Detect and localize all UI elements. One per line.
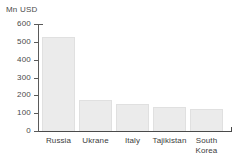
bar-south-korea	[190, 109, 223, 131]
y-tick-label: 200	[1, 91, 31, 99]
y-tick-mark	[34, 131, 39, 132]
y-tick-label: 300	[1, 74, 31, 82]
y-tick-label: 0	[1, 127, 31, 135]
bar-tajikistan	[153, 107, 186, 131]
x-axis-end-cap	[231, 127, 232, 132]
y-tick-mark	[34, 78, 39, 79]
y-tick-mark	[34, 95, 39, 96]
bar-ukrane	[79, 100, 112, 131]
y-tick-mark	[34, 24, 39, 25]
y-tick-mark	[34, 60, 39, 61]
bar-italy	[116, 104, 149, 131]
x-tick-label-line: South	[184, 136, 229, 146]
y-tick-label: 400	[1, 56, 31, 64]
x-tick-label: SouthKorea	[184, 136, 229, 155]
y-tick-mark	[34, 42, 39, 43]
x-tick-label-line: Korea	[184, 146, 229, 156]
x-axis-spine	[38, 131, 232, 132]
bar-russia	[42, 37, 75, 131]
y-tick-label: 500	[1, 38, 31, 46]
y-tick-label: 100	[1, 109, 31, 117]
y-tick-label: 600	[1, 20, 31, 28]
y-tick-mark	[34, 113, 39, 114]
plot-area: 6005004003002001000 RussiaUkraneItalyTaj…	[0, 0, 244, 165]
bar-chart: Mn USD 6005004003002001000 RussiaUkraneI…	[0, 0, 244, 165]
